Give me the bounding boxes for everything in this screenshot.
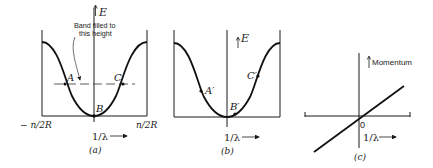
panel-b-e-label: E [240, 32, 249, 45]
panel-b: E A′ C′ B′ 1/λ (b) [174, 30, 280, 156]
panel-a-point-c [121, 82, 124, 85]
panel-a: E Band filled to this height A C B − n/2… [20, 5, 158, 155]
panel-b-caption: (b) [221, 146, 234, 156]
panel-c-y-axis-label: Momentum [372, 58, 412, 67]
panel-a-point-b [92, 114, 96, 118]
panel-b-x-axis-label: 1/λ [224, 132, 241, 143]
panel-a-label-c: C [114, 72, 122, 83]
panel-c-origin-label: 0 [360, 120, 365, 130]
up-arrow-icon [236, 37, 239, 48]
panel-b-point-a [199, 89, 202, 92]
band-diagram-figure: E Band filled to this height A C B − n/2… [0, 0, 433, 168]
panel-a-x-axis-label: 1/λ [92, 131, 109, 142]
up-arrow-icon [367, 56, 370, 68]
panel-b-label-c: C′ [247, 70, 258, 81]
panel-a-label-a: A [66, 72, 74, 83]
panel-c-x-axis-label: 1/λ [363, 132, 380, 143]
panel-c-caption: (c) [354, 152, 367, 162]
panel-c: Momentum 0 1/λ (c) [305, 53, 412, 162]
panel-a-label-b: B [95, 103, 103, 114]
panel-b-frame [174, 30, 280, 127]
panel-b-label-a: A′ [204, 85, 215, 96]
panel-a-e-label: E [98, 6, 107, 19]
panel-a-left-limit-label: − n/2R [20, 120, 52, 130]
panel-c-axes [305, 53, 410, 148]
panel-a-annotation-line2: this height [79, 29, 112, 38]
panel-a-caption: (a) [89, 145, 102, 155]
panel-a-right-limit-label: n/2R [136, 120, 158, 130]
panel-b-point-b [233, 112, 236, 115]
panel-b-label-b: B′ [229, 101, 240, 112]
